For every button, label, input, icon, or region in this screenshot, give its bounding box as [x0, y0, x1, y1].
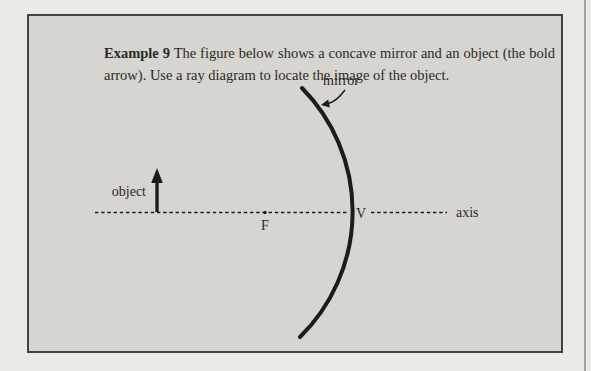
- scanned-book-page: Example 9 The figure below shows a conca…: [0, 0, 591, 371]
- mirror-pointer-arrow: [321, 90, 345, 107]
- mirror-pointer-head: [321, 100, 330, 108]
- focal-point-dot: [263, 211, 266, 214]
- object-label: object: [112, 184, 146, 199]
- object-arrow-head: [151, 168, 163, 183]
- ray-diagram: F V axis object mirror: [0, 0, 591, 371]
- vertex-label: V: [356, 206, 366, 221]
- mirror-label: mirror: [323, 73, 359, 88]
- axis-label: axis: [456, 205, 479, 220]
- focal-point-label: F: [261, 218, 269, 233]
- page-edge-line: [584, 0, 586, 371]
- mirror-pointer-curve: [329, 90, 346, 104]
- object-arrow: [151, 168, 163, 212]
